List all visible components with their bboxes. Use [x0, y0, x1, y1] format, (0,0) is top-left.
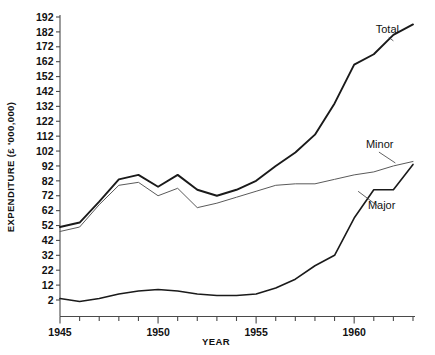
y-axis-title: EXPENDITURE (£ '000,000) [5, 102, 16, 233]
series-label-major: Major [368, 199, 396, 211]
y-tick-label: 162 [36, 55, 54, 67]
y-tick-label: 32 [42, 249, 54, 261]
x-tick-label: 1960 [342, 326, 366, 338]
y-tick-label: 172 [36, 40, 54, 52]
y-tick-label: 132 [36, 100, 54, 112]
series-annotations: TotalMinorMajor [358, 23, 399, 211]
y-tick-label: 102 [36, 145, 54, 157]
series-line-minor [60, 161, 413, 231]
y-tick-label: 182 [36, 26, 54, 38]
x-axis: 1945195019551960 [48, 317, 415, 338]
y-tick-label: 122 [36, 115, 54, 127]
y-tick-label: 12 [42, 279, 54, 291]
y-tick-label: 22 [42, 264, 54, 276]
y-tick-label: 62 [42, 204, 54, 216]
y-tick-label: 2 [48, 294, 54, 306]
y-tick-label: 52 [42, 219, 54, 231]
y-tick-label: 142 [36, 85, 54, 97]
y-axis: 2122232425262728292102112122132142152162… [36, 11, 60, 317]
series-line-total [60, 24, 413, 227]
x-tick-label: 1955 [244, 326, 268, 338]
x-tick-label: 1945 [48, 326, 72, 338]
y-tick-label: 112 [37, 130, 54, 142]
leader-line-minor [379, 152, 395, 163]
y-tick-label: 152 [36, 70, 54, 82]
series-label-minor: Minor [366, 138, 394, 150]
chart-plot-area: 2122232425262728292102112122132142152162… [0, 0, 435, 355]
series-lines [60, 24, 413, 301]
y-tick-label: 192 [36, 11, 54, 23]
expenditure-line-chart: 2122232425262728292102112122132142152162… [0, 0, 435, 355]
y-tick-label: 72 [42, 189, 54, 201]
x-axis-title: YEAR [202, 336, 230, 347]
y-tick-label: 42 [42, 234, 54, 246]
y-tick-label: 82 [42, 175, 54, 187]
y-tick-label: 92 [42, 160, 54, 172]
series-label-total: Total [376, 23, 399, 35]
x-tick-label: 1950 [146, 326, 170, 338]
